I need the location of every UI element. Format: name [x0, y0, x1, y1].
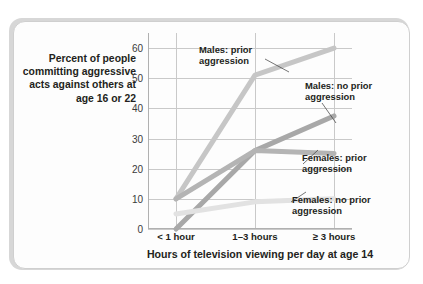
x-tick-label: < 1 hour [157, 231, 195, 242]
y-tick-label: 60 [132, 43, 143, 54]
annotation-females-no-prior-aggression: Females: no prior aggression [292, 194, 388, 217]
x-axis-caption: Hours of television viewing per day at a… [140, 248, 380, 260]
y-tick-label: 40 [132, 103, 143, 114]
annotation-males-no-prior-aggression: Males: no prior aggression [305, 80, 391, 103]
y-tick-label: 50 [132, 73, 143, 84]
annotation-males-prior-aggression: Males: prior aggression [199, 44, 269, 67]
y-axis-caption: Percent of people committing aggressive … [18, 52, 136, 105]
figure-root: Percent of people committing aggressive … [0, 0, 423, 284]
y-tick-label: 0 [137, 224, 143, 235]
x-tick-label: 1–3 hours [232, 231, 277, 242]
x-tick-label: ≥ 3 hours [313, 231, 356, 242]
series-line [176, 48, 334, 199]
y-tick-label: 20 [132, 163, 143, 174]
annotation-females-prior-aggression: Females: prior aggression [302, 152, 382, 175]
y-tick-label: 30 [132, 133, 143, 144]
y-tick-label: 10 [132, 193, 143, 204]
